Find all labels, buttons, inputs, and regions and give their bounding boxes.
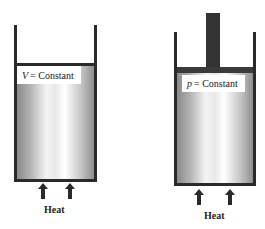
right-vessel-bottom: [174, 183, 256, 186]
pressure-symbol: p: [187, 78, 192, 89]
constant-volume-label: V = Constant: [17, 66, 81, 84]
piston-rod: [206, 13, 220, 67]
volume-symbol: V: [22, 70, 28, 81]
constant-text: = Constant: [194, 78, 238, 89]
left-vessel-wall-right: [94, 25, 97, 182]
heat-label-right: Heat: [204, 210, 225, 221]
right-vessel-wall-right: [253, 32, 256, 186]
constant-pressure-label: p = Constant: [182, 75, 245, 92]
heat-label-left: Heat: [44, 204, 65, 215]
heat-arrow-up-icon: [65, 183, 75, 199]
heat-arrow-up-icon: [194, 189, 204, 205]
heat-arrow-up-icon: [225, 189, 235, 205]
constant-text: = Constant: [30, 70, 74, 81]
heat-arrow-up-icon: [38, 183, 48, 199]
left-vessel-bottom: [14, 179, 97, 182]
